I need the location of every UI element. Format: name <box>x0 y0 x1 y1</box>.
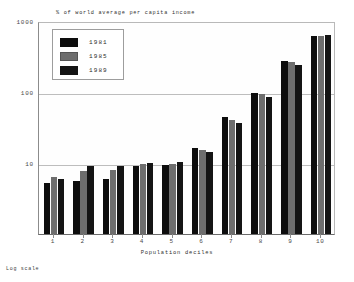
legend-item[interactable]: 1985 <box>53 49 123 63</box>
x-tick-mark <box>320 234 321 238</box>
bar <box>162 165 168 234</box>
bar <box>318 36 324 234</box>
bar <box>140 164 146 234</box>
bar <box>236 123 242 234</box>
x-tick-mark <box>201 234 202 238</box>
bar <box>229 120 235 235</box>
x-tick-mark <box>261 234 262 238</box>
x-tick-mark <box>53 234 54 238</box>
x-tick-mark <box>142 234 143 238</box>
bar <box>133 166 139 234</box>
x-tick-mark <box>83 234 84 238</box>
bar <box>58 179 64 234</box>
bar <box>147 163 153 234</box>
x-tick-label: 5 <box>170 238 174 245</box>
x-axis-title: Population deciles <box>0 250 354 256</box>
bar <box>281 61 287 234</box>
bar-group <box>247 23 277 234</box>
bar <box>80 171 86 234</box>
x-tick-label: 4 <box>140 238 144 245</box>
bar <box>199 150 205 234</box>
bar-group <box>158 23 188 234</box>
legend-swatch-icon <box>60 38 78 47</box>
chart-figure: % of world average per capita income 100… <box>0 0 354 282</box>
x-tick-mark <box>290 234 291 238</box>
x-tick-label: 10 <box>316 238 324 245</box>
y-tick-label: 100 <box>21 90 34 97</box>
bar <box>266 97 272 234</box>
legend-label: 1989 <box>89 67 108 74</box>
legend-swatch-icon <box>60 52 78 61</box>
bar <box>73 181 79 234</box>
x-tick-label: 7 <box>229 238 233 245</box>
x-tick-mark <box>112 234 113 238</box>
legend-label: 1981 <box>89 39 108 46</box>
x-tick-mark <box>172 234 173 238</box>
bar <box>311 36 317 234</box>
legend-item[interactable]: 1989 <box>53 63 123 77</box>
bar <box>259 94 265 234</box>
bar <box>169 164 175 234</box>
legend-item[interactable]: 1981 <box>53 35 123 49</box>
bar <box>295 65 301 234</box>
bar-group <box>188 23 218 234</box>
x-tick-label: 2 <box>80 238 84 245</box>
x-tick-mark <box>231 234 232 238</box>
y-tick-label: 1000 <box>16 19 34 26</box>
bar <box>206 152 212 234</box>
bar <box>192 148 198 234</box>
bar-group <box>306 23 336 234</box>
bar-group <box>277 23 307 234</box>
bar <box>288 62 294 234</box>
bar <box>51 177 57 234</box>
y-axis: 100010010 <box>0 22 34 235</box>
x-tick-label: 3 <box>110 238 114 245</box>
bar <box>110 170 116 234</box>
chart-title: % of world average per capita income <box>56 10 195 16</box>
footnote: Log scale <box>6 266 39 272</box>
legend: 198119851989 <box>52 29 124 80</box>
bar-group <box>217 23 247 234</box>
bar <box>44 183 50 234</box>
bar <box>222 117 228 234</box>
x-tick-label: 1 <box>51 238 55 245</box>
x-tick-label: 6 <box>199 238 203 245</box>
bar <box>325 35 331 234</box>
bar <box>251 93 257 234</box>
legend-label: 1985 <box>89 53 108 60</box>
bar <box>177 162 183 234</box>
x-tick-label: 9 <box>288 238 292 245</box>
legend-swatch-icon <box>60 66 78 75</box>
x-axis: 12345678910 <box>38 238 335 250</box>
bar <box>103 179 109 234</box>
y-tick-label: 10 <box>25 161 34 168</box>
x-tick-label: 8 <box>259 238 263 245</box>
bar-group <box>128 23 158 234</box>
bar <box>87 166 93 234</box>
bar <box>117 166 123 234</box>
